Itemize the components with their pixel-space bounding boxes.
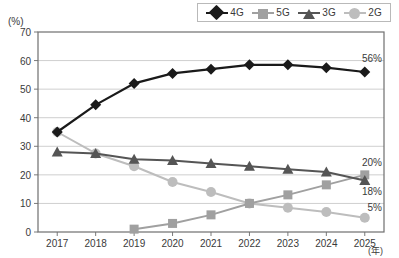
x-tick-label: 2018 [85, 238, 108, 249]
end-label-3g: 18% [362, 186, 382, 197]
x-tick-label: 2024 [315, 238, 338, 249]
y-tick-label: 40 [20, 113, 32, 124]
data-point-4g [167, 68, 178, 79]
y-axis-ticks: 010203040506070 [20, 27, 32, 238]
data-point-5g [207, 210, 216, 219]
data-point-5g [283, 190, 292, 199]
data-point-2g [360, 213, 370, 223]
plot-area: 010203040506070 201720182019202020212022… [0, 0, 399, 258]
data-point-2g [321, 207, 331, 217]
data-point-5g [130, 225, 139, 234]
data-point-4g [321, 62, 332, 73]
x-tick-label: 2022 [238, 238, 261, 249]
data-point-2g [206, 187, 216, 197]
x-tick-label: 2019 [123, 238, 146, 249]
end-label-5g: 20% [362, 157, 382, 168]
y-tick-label: 20 [20, 170, 32, 181]
data-point-4g [206, 64, 217, 75]
data-point-5g [245, 199, 254, 208]
y-tick-label: 50 [20, 84, 32, 95]
y-tick-label: 70 [20, 27, 32, 38]
data-point-5g [168, 219, 177, 228]
data-point-5g [322, 180, 331, 189]
y-tick-label: 0 [25, 227, 31, 238]
end-label-2g: 5% [368, 202, 383, 213]
x-axis-ticks: 201720182019202020212022202320242025 [46, 238, 376, 249]
x-tick-label: 2017 [46, 238, 69, 249]
data-point-4g [129, 78, 140, 89]
x-axis-unit-label: (年) [368, 244, 383, 257]
x-tick-label: 2023 [277, 238, 300, 249]
plot-frame [38, 32, 384, 232]
y-tick-label: 30 [20, 141, 32, 152]
data-point-4g [359, 67, 370, 78]
line-chart: (%) 4G 5G 3G 2G 01020304 [0, 0, 399, 258]
y-tick-label: 60 [20, 56, 32, 67]
data-point-2g [168, 177, 178, 187]
x-tick-label: 2020 [161, 238, 184, 249]
end-label-4g: 56% [362, 53, 382, 64]
x-tick-label: 2021 [200, 238, 223, 249]
y-tick-label: 10 [20, 198, 32, 209]
grid-lines [34, 32, 384, 236]
data-point-2g [283, 203, 293, 213]
